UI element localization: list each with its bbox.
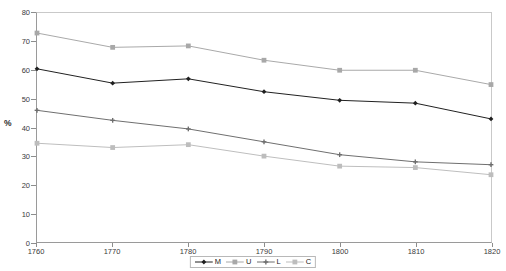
x-axis-tick-label: 1790 [256,247,273,256]
x-axis-tick [340,243,341,247]
legend-label: M [215,258,221,266]
legend-item-L[interactable]: L [257,258,281,266]
line-chart: % 01020304050607080 17601770178017901800… [0,0,506,271]
chart-legend: MULC [190,256,316,268]
legend-item-C[interactable]: C [286,258,311,266]
y-axis-tick-label: 70 [0,36,30,45]
x-axis-tick-label: 1760 [28,247,45,256]
legend-marker-diamond-icon [195,258,213,266]
legend-label: C [306,258,311,266]
plot-area [36,12,492,243]
series-canvas [37,13,491,242]
y-axis-tick-label: 60 [0,65,30,74]
legend-marker-square-icon [226,258,244,266]
y-axis-tick-label: 50 [0,94,30,103]
x-axis-tick-label: 1780 [180,247,197,256]
series-M [35,66,494,121]
x-axis-tick [492,243,493,247]
series-U [35,31,494,87]
y-axis-tick-label: 30 [0,152,30,161]
legend-marker-cross-icon [257,258,275,266]
x-axis-tick-label: 1770 [104,247,121,256]
legend-marker-square-icon [286,258,304,266]
x-axis-tick-label: 1800 [332,247,349,256]
y-axis-tick-label: 20 [0,181,30,190]
y-axis-tick-label: 10 [0,210,30,219]
x-axis-tick-label: 1820 [484,247,501,256]
x-axis-tick [264,243,265,247]
x-axis-tick [36,243,37,247]
legend-item-U[interactable]: U [226,258,251,266]
y-axis-tick-label: 40 [0,123,30,132]
series-C [35,141,494,177]
y-axis-tick-label: 0 [0,239,30,248]
y-axis-tick-label: 80 [0,8,30,17]
legend-label: U [246,258,251,266]
x-axis-tick [112,243,113,247]
x-axis-tick [416,243,417,247]
legend-item-M[interactable]: M [195,258,221,266]
x-axis-tick [188,243,189,247]
legend-label: L [277,258,281,266]
x-axis-tick-label: 1810 [408,247,425,256]
